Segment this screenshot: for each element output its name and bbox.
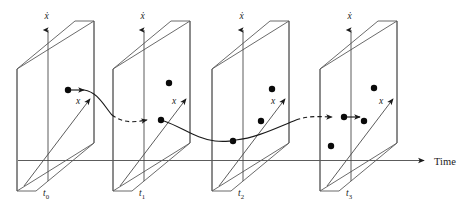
- trajectory-segment-solid-0: [84, 90, 112, 115]
- time-tick-label-sub-2: 2: [241, 193, 245, 200]
- plane-top-edge-1: [113, 21, 190, 69]
- xdot-axis-label-2: ẋ: [239, 11, 245, 21]
- plane-top-edge-2: [212, 21, 289, 69]
- x-axis-label-2: x: [270, 96, 276, 106]
- trajectory-segment-dashed-0: [112, 115, 147, 122]
- plane-bottom-edge-1: [113, 143, 190, 191]
- x-axis-0: [24, 99, 90, 186]
- state-dot: [65, 87, 71, 93]
- plane-top-edge-0: [17, 21, 94, 69]
- x-axis-label-0: x: [75, 96, 81, 106]
- time-slice-3: ẋ x t3: [320, 11, 397, 200]
- time-axis-group: Time: [18, 156, 456, 167]
- state-dot: [361, 118, 367, 124]
- figure-root: Time ẋ x t0: [0, 0, 466, 212]
- x-axis-2: [219, 99, 285, 186]
- xdot-axis-label-1: ẋ: [140, 11, 146, 21]
- trajectory-segment-solid-2: [236, 120, 296, 140]
- state-dot: [371, 85, 377, 91]
- x-axis-3: [327, 99, 393, 186]
- xdot-axis-label-3: ẋ: [347, 11, 353, 21]
- state-dot: [328, 143, 334, 149]
- plane-top-edge-3: [320, 21, 397, 69]
- plane-bottom-edge-2: [212, 143, 289, 191]
- plane-bottom-edge-0: [17, 143, 94, 191]
- state-dot: [341, 114, 347, 120]
- time-axis-label: Time: [434, 156, 456, 167]
- plane-outline-3: [320, 21, 397, 191]
- state-dot: [158, 117, 164, 123]
- x-axis-1: [120, 99, 186, 186]
- trajectory-segment-solid-1: [164, 121, 233, 141]
- x-axis-label-1: x: [171, 96, 177, 106]
- time-tick-label-sub-3: 3: [349, 193, 353, 200]
- trajectory-segment-dashed-1: [296, 117, 332, 120]
- plane-outline-0: [17, 21, 94, 191]
- time-tick-label-2: t2: [238, 188, 245, 200]
- trajectory-group: [71, 90, 360, 141]
- x-axis-label-3: x: [378, 96, 384, 106]
- time-tick-label-1: t1: [139, 188, 145, 200]
- time-slice-1: ẋ x t1: [113, 11, 190, 200]
- time-slice-2: ẋ x t2: [212, 11, 289, 200]
- time-tick-label-sub-0: 0: [46, 193, 50, 200]
- plane-bottom-edge-3: [320, 143, 397, 191]
- xdot-axis-label-0: ẋ: [44, 11, 50, 21]
- state-space-diagram: Time ẋ x t0: [0, 0, 466, 212]
- plane-outline-2: [212, 21, 289, 191]
- state-dot: [258, 118, 264, 124]
- state-dot: [166, 80, 172, 86]
- state-dot: [269, 86, 275, 92]
- time-tick-label-3: t3: [346, 188, 353, 200]
- time-tick-label-0: t0: [43, 188, 50, 200]
- time-tick-label-sub-1: 1: [142, 193, 145, 200]
- plane-outline-1: [113, 21, 190, 191]
- time-slice-0: ẋ x t0: [17, 11, 94, 200]
